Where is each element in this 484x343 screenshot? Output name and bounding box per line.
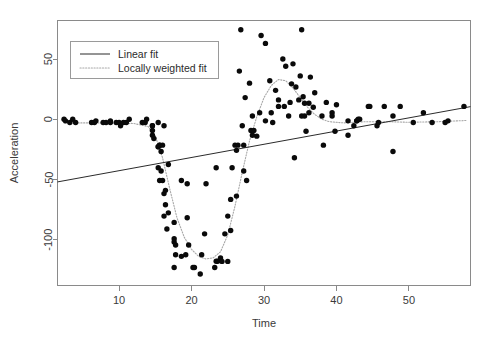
- data-point: [390, 149, 395, 154]
- scatter-plot-svg: 500-50-100 1020304050 Acceleration Time …: [0, 0, 484, 343]
- data-point: [192, 265, 197, 270]
- data-point: [287, 100, 292, 105]
- data-point: [108, 120, 113, 125]
- data-point: [267, 78, 272, 83]
- data-point: [241, 142, 246, 147]
- data-point: [179, 178, 184, 183]
- data-point: [242, 95, 247, 100]
- data-point: [150, 123, 155, 128]
- data-point: [164, 226, 169, 231]
- data-point: [241, 168, 246, 173]
- data-point: [429, 120, 434, 125]
- data-point: [184, 215, 189, 220]
- data-point: [298, 73, 303, 78]
- data-point: [250, 113, 255, 118]
- legend-label-linear-fit: Linear fit: [118, 48, 158, 60]
- data-point: [312, 90, 317, 95]
- data-point: [158, 168, 163, 173]
- data-point: [161, 213, 166, 218]
- data-point: [306, 101, 311, 106]
- x-tick-label: 50: [403, 294, 415, 306]
- data-point: [237, 68, 242, 73]
- x-tick-label: 20: [185, 294, 197, 306]
- data-point: [257, 110, 262, 115]
- y-tick-label: 50: [43, 53, 55, 65]
- data-point: [234, 193, 239, 198]
- data-point: [184, 181, 189, 186]
- y-axis-ticks: 500-50-100: [43, 53, 58, 251]
- data-point: [171, 220, 176, 225]
- data-point: [244, 178, 249, 183]
- data-point: [171, 236, 176, 241]
- x-tick-label: 30: [258, 294, 270, 306]
- data-point: [225, 213, 230, 218]
- data-point: [229, 165, 234, 170]
- data-point: [351, 123, 356, 128]
- x-axis-title: Time: [252, 317, 276, 329]
- data-point: [160, 142, 165, 147]
- data-point: [276, 104, 281, 109]
- data-point: [299, 27, 304, 32]
- data-point: [228, 228, 233, 233]
- data-point: [293, 84, 298, 89]
- legend: Linear fit Locally weighted fit: [71, 42, 219, 79]
- data-point: [357, 117, 362, 122]
- data-point: [421, 110, 426, 115]
- data-point: [228, 197, 233, 202]
- y-axis-title: Acceleration: [8, 123, 20, 184]
- data-point: [161, 123, 166, 128]
- data-point: [263, 118, 268, 123]
- data-point: [324, 100, 329, 105]
- data-point: [173, 242, 178, 247]
- data-point: [173, 252, 178, 257]
- data-point: [171, 265, 176, 270]
- data-point: [186, 242, 191, 247]
- data-point: [166, 162, 171, 167]
- data-point: [235, 142, 240, 147]
- data-point: [382, 104, 387, 109]
- x-axis-ticks: 1020304050: [113, 286, 415, 306]
- data-point: [73, 120, 78, 125]
- data-point: [334, 102, 339, 107]
- data-point: [367, 104, 372, 109]
- data-point: [269, 110, 274, 115]
- data-point: [258, 33, 263, 38]
- data-point: [222, 231, 227, 236]
- data-point: [238, 27, 243, 32]
- data-point: [283, 64, 288, 69]
- data-point: [158, 149, 163, 154]
- data-point: [290, 61, 295, 66]
- data-point: [390, 113, 395, 118]
- data-point: [263, 41, 268, 46]
- legend-label-locally-weighted-fit: Locally weighted fit: [118, 62, 207, 74]
- data-point: [445, 118, 450, 123]
- data-point: [247, 80, 252, 85]
- linear-fit-line: [58, 107, 471, 182]
- data-point: [156, 120, 161, 125]
- data-point: [144, 117, 149, 122]
- data-point: [202, 231, 207, 236]
- data-point: [183, 252, 188, 257]
- data-point: [398, 104, 403, 109]
- x-tick-label: 40: [330, 294, 342, 306]
- data-point: [306, 110, 311, 115]
- data-point: [289, 81, 294, 86]
- data-point: [199, 252, 204, 257]
- y-tick-label: -50: [43, 172, 55, 188]
- data-point: [234, 148, 239, 153]
- data-point: [198, 271, 203, 276]
- data-point: [219, 259, 224, 264]
- data-point: [302, 113, 307, 118]
- data-point: [276, 97, 281, 102]
- y-tick-label: 0: [43, 116, 55, 122]
- data-point: [319, 113, 324, 118]
- x-tick-label: 10: [113, 294, 125, 306]
- data-point: [93, 118, 98, 123]
- y-tick-label: -100: [43, 229, 55, 251]
- data-point: [345, 118, 350, 123]
- data-point: [240, 123, 245, 128]
- data-point: [166, 210, 171, 215]
- data-point: [308, 74, 313, 79]
- data-point: [203, 181, 208, 186]
- data-point: [163, 202, 168, 207]
